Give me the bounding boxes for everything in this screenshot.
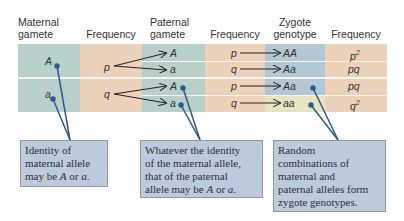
callout-random-combinations: Random combinations of maternal and pate… <box>273 140 386 212</box>
callout-maternal-identity: Identity of maternal allele may be A or … <box>20 140 108 187</box>
leader-lines-callout-1 <box>51 64 70 140</box>
callout-paternal-identity: Whatever the identity of the maternal al… <box>140 140 263 198</box>
fork-arrow-p <box>114 53 166 70</box>
genotype-arrows <box>240 53 280 103</box>
leader-lines-callout-3 <box>309 86 338 140</box>
fork-arrow-q <box>114 86 166 103</box>
leader-lines-callout-2 <box>179 86 200 140</box>
